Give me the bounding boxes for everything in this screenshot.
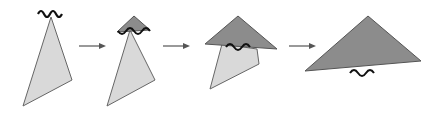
- arrow-3: [289, 43, 316, 49]
- step-4: [305, 16, 421, 76]
- wave-marker: [350, 70, 374, 76]
- light-triangle: [107, 30, 155, 106]
- wave-marker: [38, 11, 62, 17]
- dark-triangle: [205, 16, 277, 49]
- step-3: [205, 16, 277, 89]
- step-2: [107, 16, 155, 106]
- dark-triangle: [305, 16, 421, 71]
- step-1: [23, 11, 72, 106]
- arrow-1: [79, 43, 106, 49]
- light-triangle: [23, 17, 72, 106]
- light-triangle: [210, 44, 259, 89]
- diagram-canvas: [0, 0, 443, 117]
- arrow-2: [163, 43, 190, 49]
